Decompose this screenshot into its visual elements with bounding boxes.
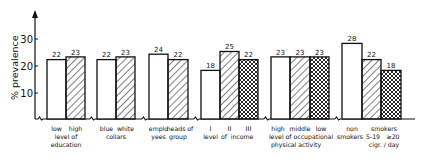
category-label: ≥20 (386, 133, 399, 140)
category-label: heads of (167, 125, 194, 132)
bar-group-income: 18 25 22 I II III level of income (201, 43, 258, 140)
bar-white-collars (116, 57, 135, 119)
value-label: 22 (52, 51, 61, 59)
value-label: 23 (276, 49, 285, 57)
bar-activity-middle (290, 57, 310, 119)
value-label: 23 (296, 49, 305, 57)
y-tick-10: 10 (20, 88, 33, 99)
y-axis: 30 20 10 % prevalence (9, 10, 38, 119)
group-label: collars (106, 133, 126, 140)
axis-arrow-icon (32, 10, 38, 18)
category-label: middle (289, 125, 310, 132)
bar-blue-collars (97, 60, 116, 119)
y-axis-label: % prevalence (9, 35, 20, 100)
value-label: 25 (225, 43, 234, 51)
category-label: high (69, 125, 83, 133)
category-label: white (117, 125, 134, 132)
bar-group-employment: 24 22 emplo heads of yees group (149, 46, 194, 141)
group-label: education (51, 141, 82, 148)
bar-group-collars: 22 23 blue white collars (97, 49, 135, 141)
category-label: low (316, 125, 327, 132)
bar-income-III (239, 60, 258, 119)
bar-income-II (220, 52, 239, 120)
category-label: low (51, 125, 62, 132)
group-label: cigr. / day (369, 141, 400, 149)
category-label: yees (151, 133, 166, 141)
value-label: 23 (121, 49, 130, 57)
value-label: 28 (348, 35, 357, 43)
category-label: group (169, 133, 187, 141)
bar-activity-high (271, 57, 290, 119)
category-label: smokers (371, 125, 397, 132)
bar-non-smokers (342, 43, 362, 119)
category-label: II (228, 125, 232, 133)
group-label: income (231, 133, 254, 140)
value-label: 22 (102, 51, 111, 59)
value-label: 22 (244, 51, 253, 59)
value-label: 22 (174, 51, 183, 59)
category-label: smokers (337, 133, 363, 140)
value-label: 23 (315, 49, 324, 57)
y-tick-30: 30 (20, 34, 33, 45)
bar-group-education: 22 23 low high level of education (47, 49, 85, 149)
category-label: I (210, 125, 212, 133)
group-label: physical activity (271, 141, 321, 149)
value-label: 23 (71, 49, 80, 57)
bar-group-physical-activity: 23 23 23 high middle low level of occupa… (269, 49, 333, 150)
category-label: blue (100, 125, 114, 132)
value-label: 24 (154, 46, 163, 54)
bar-high-education (66, 57, 85, 119)
bar-smokers-20-plus (381, 70, 401, 119)
bar-activity-low (310, 57, 329, 119)
value-label: 18 (387, 62, 396, 70)
category-label: III (246, 125, 252, 133)
bar-employees (149, 54, 168, 119)
bar-heads-of-group (168, 60, 188, 119)
bar-low-education (47, 60, 66, 119)
value-label: 18 (206, 62, 215, 70)
bar-group-smoking: 28 22 18 non smokers smokers 5-19 ≥20 ci… (337, 35, 401, 149)
group-label: level (203, 133, 218, 140)
category-label: non (346, 125, 358, 132)
category-label: emplo (149, 125, 168, 133)
y-tick-20: 20 (20, 61, 33, 72)
group-label: of (221, 133, 228, 140)
category-label: 5-19 (366, 133, 380, 140)
group-label: level of (55, 133, 78, 140)
prevalence-bar-chart: 30 20 10 % prevalence 22 23 low high lev… (0, 0, 425, 159)
group-label: level of occupational (269, 133, 333, 141)
category-label: high (271, 125, 285, 133)
value-label: 22 (367, 51, 376, 59)
bar-smokers-5-19 (362, 60, 381, 119)
bar-income-I (201, 70, 220, 119)
